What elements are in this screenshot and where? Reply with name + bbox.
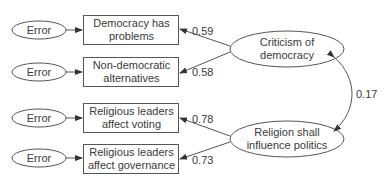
indicator-label-2-line2: alternatives [84, 72, 179, 85]
indicator-label-1: Democracy has problems [84, 17, 179, 43]
indicator-label-4: Religious leaders affect governance [84, 146, 179, 172]
loading-value-1: 0.59 [192, 25, 213, 37]
indicator-label-3: Religious leaders affect voting [84, 105, 179, 131]
error-label-1: Error [12, 24, 66, 37]
factor-label-religion-line1: Religion shall [230, 126, 344, 139]
loading-value-2: 0.58 [192, 66, 213, 78]
factor-label-criticism-line1: Criticism of [230, 36, 344, 49]
error-label-3: Error [12, 112, 66, 125]
error-label-2: Error [12, 66, 66, 79]
factor-label-religion-line2: influence politics [230, 139, 344, 152]
indicator-label-2-line1: Non-democratic [84, 59, 179, 72]
indicator-label-3-line1: Religious leaders [84, 105, 179, 118]
factor-label-religion: Religion shall influence politics [230, 126, 344, 152]
correlation-arrow [334, 57, 352, 131]
indicator-label-2: Non-democratic alternatives [84, 59, 179, 85]
loading-value-3: 0.78 [192, 113, 213, 125]
indicator-label-1-line2: problems [84, 30, 179, 43]
factor-label-criticism-line2: democracy [230, 49, 344, 62]
factor-label-criticism: Criticism of democracy [230, 36, 344, 62]
error-label-4: Error [12, 152, 66, 165]
indicator-label-4-line2: affect governance [84, 159, 179, 172]
indicator-label-1-line1: Democracy has [84, 17, 179, 30]
loading-value-4: 0.73 [192, 154, 213, 166]
indicator-label-4-line1: Religious leaders [84, 146, 179, 159]
correlation-value: 0.17 [356, 88, 377, 100]
indicator-label-3-line2: affect voting [84, 118, 179, 131]
